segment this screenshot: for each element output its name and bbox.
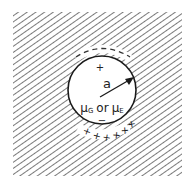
- top-inner-charge: +: [96, 62, 104, 73]
- diagram-canvas: + a μGorμE − + + + + + +: [0, 0, 195, 190]
- inner-material-label: μGorμE: [80, 101, 123, 115]
- bottom-inner-charge: −: [98, 115, 106, 126]
- radius-label: a: [103, 76, 111, 91]
